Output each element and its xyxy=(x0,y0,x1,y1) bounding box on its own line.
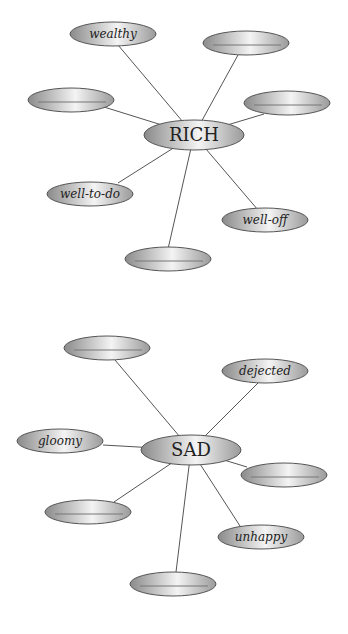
node-ellipse xyxy=(64,336,150,360)
node-unhappy: unhappy xyxy=(218,525,304,549)
node-label: unhappy xyxy=(235,530,288,544)
blank-node[interactable] xyxy=(130,572,216,596)
node-label: well-off xyxy=(243,213,290,227)
node-gloomy: gloomy xyxy=(17,429,103,453)
node-well-to-do: well-to-do xyxy=(47,182,133,206)
blank-node[interactable] xyxy=(203,31,289,55)
node-ellipse xyxy=(28,88,114,112)
word-web-sad: dejectedgloomyunhappySAD xyxy=(17,336,327,596)
blank-node[interactable] xyxy=(244,91,330,115)
blank-node[interactable] xyxy=(64,336,150,360)
node-ellipse xyxy=(203,31,289,55)
node-label: gloomy xyxy=(38,434,82,448)
blank-node[interactable] xyxy=(125,247,211,271)
node-ellipse xyxy=(241,463,327,487)
word-web-rich: wealthywell-to-dowell-offRICH xyxy=(28,22,330,271)
node-label: well-to-do xyxy=(60,187,120,201)
blank-node[interactable] xyxy=(45,500,131,524)
center-label: SAD xyxy=(171,439,211,460)
node-well-off: well-off xyxy=(222,208,308,232)
node-label: dejected xyxy=(239,364,291,378)
node-ellipse xyxy=(130,572,216,596)
node-ellipse xyxy=(125,247,211,271)
blank-node[interactable] xyxy=(28,88,114,112)
word-web-canvas: wealthywell-to-dowell-offRICHdejectedglo… xyxy=(0,0,348,634)
center-node: SAD xyxy=(141,435,241,465)
node-wealthy: wealthy xyxy=(70,22,156,46)
blank-node[interactable] xyxy=(241,463,327,487)
node-ellipse xyxy=(45,500,131,524)
node-ellipse xyxy=(244,91,330,115)
node-dejected: dejected xyxy=(222,359,308,383)
connector-line xyxy=(176,450,191,572)
connector-line xyxy=(168,135,194,249)
center-label: RICH xyxy=(169,124,219,145)
node-label: wealthy xyxy=(89,27,137,41)
center-node: RICH xyxy=(144,120,244,150)
